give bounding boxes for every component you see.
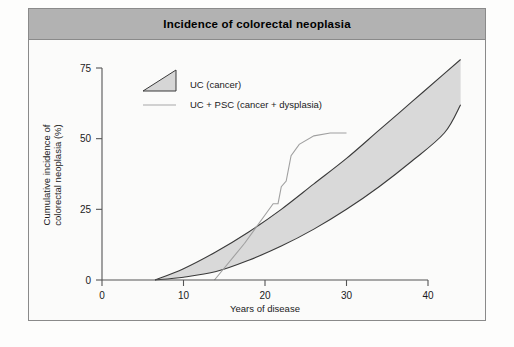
x-axis-tick-label: 30 <box>341 290 353 301</box>
y-axis-title: Cumulative incidence of colorectal neopl… <box>41 124 63 225</box>
uc-cancer-band <box>155 60 461 280</box>
y-axis-tick-label: 50 <box>80 133 92 144</box>
y-axis-tick-label: 25 <box>80 204 92 215</box>
x-axis-tick-label: 0 <box>99 290 105 301</box>
figure-container: Incidence of colorectal neoplasia 02 <box>0 0 514 347</box>
x-axis-tick-label: 10 <box>178 290 190 301</box>
legend-label: UC + PSC (cancer + dysplasia) <box>190 99 322 110</box>
filled-triangle-swatch-icon <box>143 70 176 91</box>
plot-area: 0255075 010203040 Years of disease Cumul… <box>0 0 514 347</box>
legend-item-uc-psc[interactable]: UC + PSC (cancer + dysplasia) <box>143 99 322 110</box>
legend: UC (cancer) UC + PSC (cancer + dysplasia… <box>143 70 322 110</box>
legend-label: UC (cancer) <box>190 79 241 90</box>
svg-text:Cumulative incidence of: Cumulative incidence of <box>41 124 52 225</box>
x-axis-title: Years of disease <box>230 303 300 314</box>
y-axis-tick-label: 75 <box>80 63 92 74</box>
x-axis-tick-label: 40 <box>422 290 434 301</box>
svg-text:colorectal neoplasia (%): colorectal neoplasia (%) <box>52 124 63 225</box>
x-axis-tick-labels: 010203040 <box>99 290 434 301</box>
x-axis-tick-label: 20 <box>259 290 271 301</box>
y-axis-tick-label: 0 <box>85 275 91 286</box>
legend-item-uc-cancer[interactable]: UC (cancer) <box>143 70 241 91</box>
y-axis-tick-labels: 0255075 <box>80 63 92 286</box>
